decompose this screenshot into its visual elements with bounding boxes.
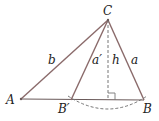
label-B-prime: B′	[57, 102, 70, 116]
vertex-C-dot	[107, 19, 109, 21]
label-side-a-prime: a′	[92, 53, 102, 67]
side-a-prime	[71, 20, 108, 100]
right-angle-marker	[108, 93, 115, 100]
label-side-a: a	[131, 53, 138, 67]
label-A: A	[5, 93, 15, 107]
triangle-diagram: C A B′ B b a′ h a	[0, 0, 159, 121]
base-line-AB	[21, 99, 144, 100]
label-B: B	[142, 102, 152, 116]
label-altitude-h: h	[112, 53, 120, 67]
label-side-b: b	[48, 53, 56, 67]
label-C: C	[103, 4, 112, 18]
vertex-A-dot	[20, 98, 22, 100]
